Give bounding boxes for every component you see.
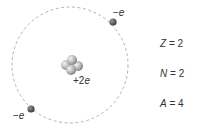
atomic-number-label: Z = 2 bbox=[160, 38, 183, 49]
electron-lower-left bbox=[27, 105, 34, 112]
neutron-number-label: N = 2 bbox=[160, 68, 184, 79]
mass-number-label: A = 4 bbox=[160, 98, 184, 109]
electron-label-lower: −e bbox=[13, 110, 24, 121]
atom-diagram bbox=[0, 0, 199, 130]
nucleus-charge-label: +2e bbox=[73, 75, 90, 86]
electron-upper-right bbox=[109, 18, 116, 25]
nucleus bbox=[61, 55, 83, 75]
electron-label-upper: −e bbox=[113, 7, 124, 18]
